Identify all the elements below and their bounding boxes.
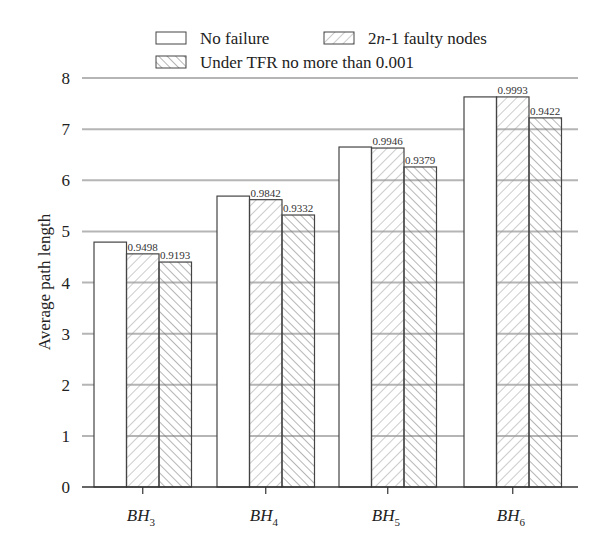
- x-tick-label-bh4: BH4: [250, 506, 279, 528]
- bar-under-tfr-no-more-than-0-001-bh3: [159, 262, 192, 487]
- bar-no-failure-bh3: [94, 242, 127, 487]
- data-label: 0.9842: [251, 187, 281, 199]
- legend-label-faulty-nodes: 2n-1 faulty nodes: [368, 29, 487, 48]
- bar-2n-1-faulty-nodes-bh6: [497, 97, 530, 487]
- x-tick-label-bh6: BH6: [497, 506, 526, 528]
- bar-2n-1-faulty-nodes-bh3: [127, 254, 160, 487]
- bar-no-failure-bh5: [339, 147, 372, 487]
- legend-swatch-tfr: [156, 56, 186, 68]
- bar-under-tfr-no-more-than-0-001-bh5: [404, 167, 437, 487]
- bar-under-tfr-no-more-than-0-001-bh4: [282, 215, 315, 487]
- data-label: 0.9993: [498, 84, 529, 96]
- legend-swatch-no-failure: [156, 32, 186, 44]
- bar-under-tfr-no-more-than-0-001-bh6: [529, 118, 562, 487]
- data-label: 0.9946: [373, 135, 404, 147]
- y-tick-label: 2: [62, 376, 71, 395]
- x-tick-label-bh5: BH5: [372, 506, 401, 528]
- bar-no-failure-bh6: [464, 97, 497, 487]
- data-label: 0.9422: [530, 105, 560, 117]
- bar-no-failure-bh4: [217, 196, 250, 487]
- y-tick-label: 5: [62, 222, 71, 241]
- y-tick-label: 0: [62, 478, 71, 497]
- legend-swatch-faulty-nodes: [324, 32, 354, 44]
- y-tick-label: 8: [62, 69, 71, 88]
- data-label: 0.9498: [128, 241, 159, 253]
- legend-label-no-failure: No failure: [200, 29, 269, 48]
- legend-label-tfr: Under TFR no more than 0.001: [200, 53, 414, 72]
- y-axis-ticks: 012345678: [62, 69, 71, 497]
- bar-2n-1-faulty-nodes-bh5: [372, 148, 405, 487]
- y-tick-label: 1: [62, 427, 71, 446]
- data-label: 0.9332: [283, 202, 313, 214]
- bar-chart: No failure 2n-1 faulty nodes Under TFR n…: [0, 0, 607, 552]
- legend: No failure 2n-1 faulty nodes Under TFR n…: [156, 29, 487, 72]
- x-tick-label-bh3: BH3: [127, 506, 156, 528]
- y-tick-label: 7: [62, 120, 71, 139]
- y-tick-label: 6: [62, 171, 71, 190]
- data-label: 0.9193: [160, 249, 191, 261]
- y-axis-title: Average path length: [35, 213, 54, 350]
- bars: [94, 97, 562, 487]
- y-tick-label: 3: [62, 325, 71, 344]
- x-axis: BH3BH4BH5BH6: [82, 487, 578, 528]
- bar-2n-1-faulty-nodes-bh4: [250, 200, 283, 487]
- data-label: 0.9379: [405, 154, 436, 166]
- y-tick-label: 4: [62, 274, 71, 293]
